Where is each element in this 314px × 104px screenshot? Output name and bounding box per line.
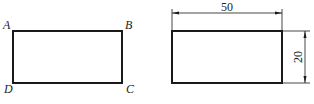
vertex-label-b: B: [125, 18, 133, 32]
width-dimension: 50: [172, 0, 282, 30]
arrowhead-bottom-icon: [304, 76, 307, 83]
vertex-label-d: D: [3, 82, 13, 96]
height-dimension: 20: [283, 31, 310, 83]
arrowhead-right-icon: [275, 12, 282, 15]
rectangle-left-shape: [13, 31, 122, 83]
rectangle-dimensioned: 50 20: [172, 0, 310, 83]
arrowhead-left-icon: [172, 12, 179, 15]
height-label: 20: [291, 51, 305, 63]
width-label: 50: [221, 0, 233, 14]
rectangle-right-shape: [172, 31, 282, 83]
diagram-canvas: A B C D 50 20: [0, 0, 314, 104]
vertex-label-c: C: [126, 82, 135, 96]
vertex-label-a: A: [2, 18, 11, 32]
rectangle-abcd: A B C D: [2, 18, 135, 96]
arrowhead-top-icon: [304, 31, 307, 38]
